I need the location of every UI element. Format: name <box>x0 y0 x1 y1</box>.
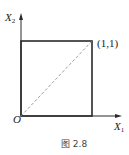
figure-caption: 图 2.8 <box>61 140 87 149</box>
diagonal-dashed-line <box>21 41 92 116</box>
y-axis-label-main: X <box>5 11 12 23</box>
unit-square-diagram <box>0 0 129 155</box>
y-axis-label: X2 <box>5 12 15 25</box>
x-axis-label-main: X <box>114 120 121 132</box>
x-axis-label-subscript: 1 <box>121 126 125 134</box>
origin-label: O <box>13 114 21 125</box>
x-axis-arrow-icon <box>115 114 122 118</box>
y-axis-label-subscript: 2 <box>12 17 16 25</box>
y-axis-arrow-icon <box>19 13 23 20</box>
point-label: (1,1) <box>97 38 118 49</box>
x-axis-label: X1 <box>114 121 124 134</box>
